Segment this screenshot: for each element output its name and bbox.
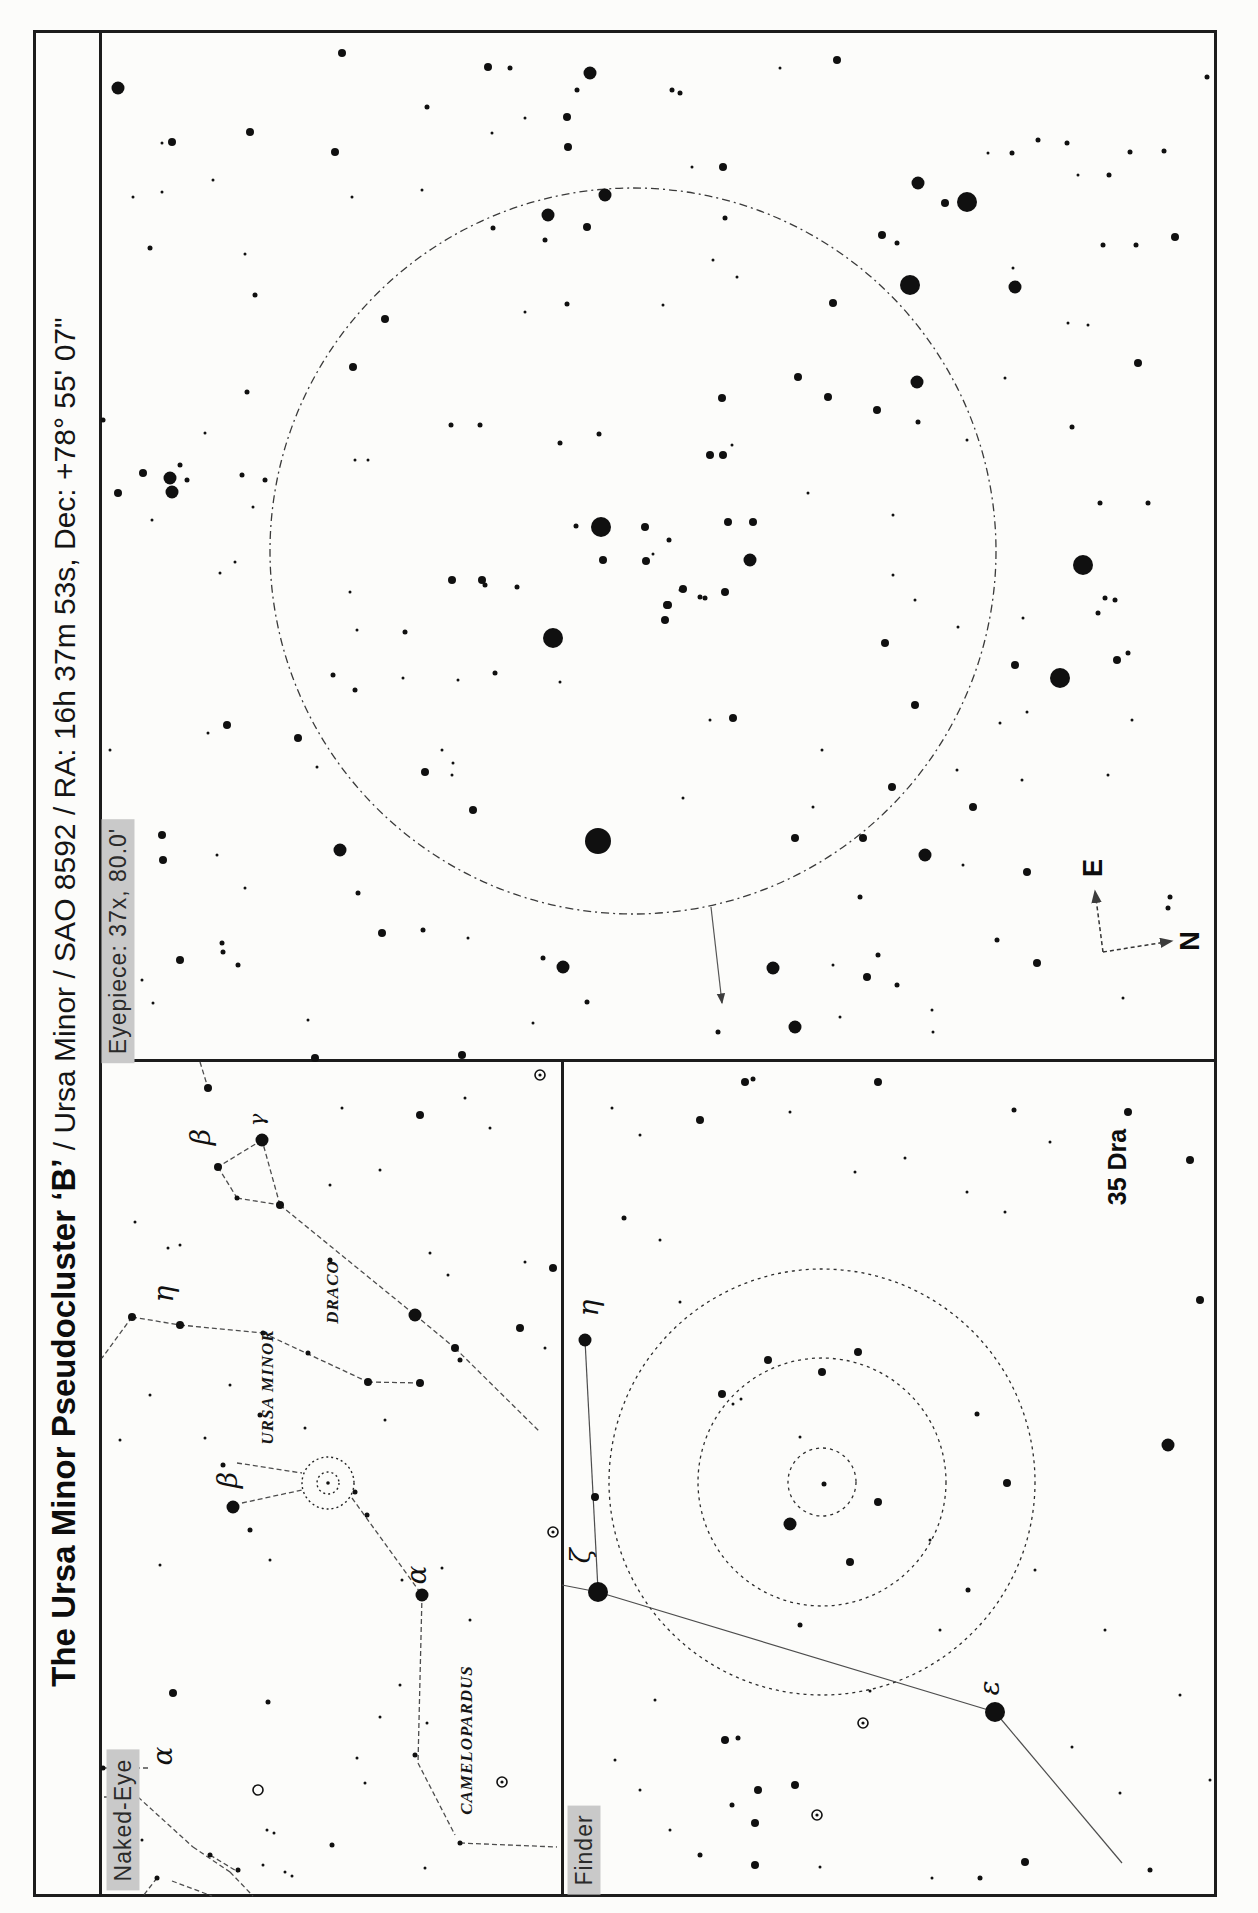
constellation-line: [415, 1315, 455, 1348]
constellation-line: [262, 1140, 280, 1205]
star: [353, 1490, 358, 1495]
star: [421, 189, 424, 192]
star: [1113, 656, 1121, 664]
star: [316, 766, 319, 769]
star: [449, 423, 454, 428]
star: [1096, 611, 1101, 616]
star: [564, 143, 572, 151]
star: [751, 1861, 759, 1869]
star: [284, 1871, 287, 1874]
star: [730, 1803, 735, 1808]
star: [109, 749, 112, 752]
star: [1103, 596, 1108, 601]
star: [1168, 895, 1173, 900]
star: [932, 1031, 935, 1034]
constellation-line: [460, 1843, 557, 1847]
constellation-line: [263, 1333, 368, 1382]
star: [356, 891, 361, 896]
star: [262, 1864, 265, 1867]
star: [1021, 779, 1024, 782]
star: [1022, 617, 1025, 620]
star: [227, 1501, 240, 1514]
star: [729, 714, 737, 722]
star: [207, 732, 210, 735]
star: [155, 1876, 160, 1881]
star: [663, 601, 671, 609]
star: [1021, 1858, 1029, 1866]
star: [266, 1829, 269, 1832]
star: [719, 163, 727, 171]
star: [985, 1702, 1005, 1722]
star: [874, 1498, 882, 1506]
star: [662, 304, 665, 307]
star: [464, 1097, 467, 1100]
star: [1162, 1439, 1175, 1452]
star: [141, 1839, 144, 1842]
star: [599, 556, 607, 564]
star: [365, 1513, 370, 1518]
eyepiece-field-circle: [270, 188, 996, 914]
star: [975, 1412, 980, 1417]
star: [378, 929, 386, 937]
page-title-main: The Ursa Minor Pseudocluster ‘B’: [45, 1159, 82, 1687]
star: [402, 677, 405, 680]
star: [223, 721, 231, 729]
star: [931, 1877, 934, 1880]
star: [911, 376, 924, 389]
star: [966, 1191, 969, 1194]
star: [1023, 868, 1031, 876]
star: [999, 722, 1002, 725]
constellation-line: [598, 1592, 995, 1712]
star: [148, 246, 153, 251]
star: [409, 1309, 422, 1322]
star: [354, 459, 357, 462]
star: [740, 1398, 743, 1401]
star: [1107, 774, 1110, 777]
constellation-line: [218, 1167, 237, 1198]
ring-star-dot: [538, 1073, 541, 1076]
greek-alpha-corner: α: [146, 1747, 179, 1766]
star: [597, 432, 602, 437]
star: [1065, 141, 1070, 146]
star: [367, 459, 370, 462]
star: [236, 1868, 241, 1873]
star: [1049, 1141, 1052, 1144]
star: [413, 1753, 418, 1758]
star: [364, 1378, 372, 1386]
star: [491, 132, 494, 135]
star: [1026, 711, 1029, 714]
star: [718, 394, 726, 402]
star: [543, 238, 548, 243]
star: [1134, 359, 1142, 367]
star: [356, 629, 359, 632]
star: [214, 1163, 222, 1171]
star: [911, 701, 919, 709]
star: [718, 1390, 726, 1398]
star: [294, 734, 302, 742]
star: [639, 1134, 642, 1137]
star: [900, 275, 920, 295]
star: [457, 679, 460, 682]
star: [1033, 959, 1041, 967]
star: [652, 553, 655, 556]
star: [164, 472, 177, 485]
star: [919, 849, 932, 862]
star: [161, 191, 164, 194]
star: [1104, 1629, 1107, 1632]
star: [854, 1348, 862, 1356]
star: [532, 1022, 535, 1025]
compass-east-arrow: [1095, 891, 1103, 952]
star: [483, 583, 488, 588]
star: [458, 1358, 463, 1363]
star: [119, 1439, 122, 1442]
ring-star: [253, 1785, 263, 1795]
star: [957, 192, 977, 212]
star: [489, 1127, 492, 1130]
star: [341, 1107, 344, 1110]
constellation-line: [180, 1325, 263, 1333]
star: [451, 774, 454, 777]
star: [1179, 1694, 1182, 1697]
star: [1146, 501, 1151, 506]
star: [1012, 267, 1015, 270]
star: [941, 199, 949, 207]
